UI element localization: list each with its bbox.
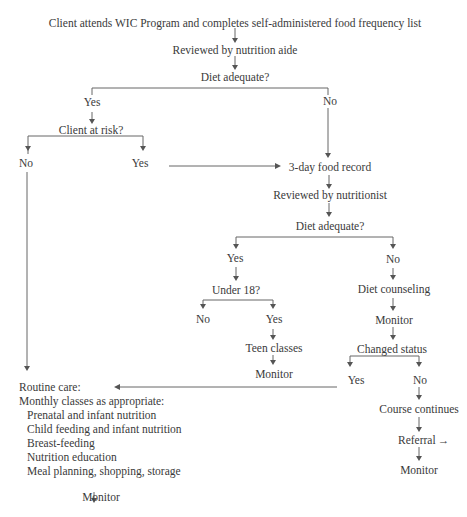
class-item: Child feeding and infant nutrition [27, 423, 182, 436]
arrow-right-icon: → [438, 434, 450, 446]
food-record-node: 3-day food record [289, 161, 371, 174]
teen-classes-node: Teen classes [246, 342, 303, 355]
yes-label-2: Yes [227, 252, 244, 265]
diet-adequate-decision-2: Diet adequate? [296, 220, 365, 233]
referral-node: Referral→ [398, 434, 449, 447]
class-item: Nutrition education [27, 451, 117, 464]
monitor-teen-node: Monitor [255, 368, 293, 381]
monitor-routine-node: Monitor [82, 491, 120, 504]
monitor-counseling-node: Monitor [375, 314, 413, 327]
class-item: Prenatal and infant nutrition [27, 409, 156, 422]
review-nutritionist-node: Reviewed by nutritionist [273, 189, 387, 202]
risk-no-label: No [19, 157, 33, 170]
class-item: Breast-feeding [27, 437, 95, 450]
review-aide-node: Reviewed by nutrition aide [173, 44, 298, 57]
routine-care-heading: Routine care: [19, 381, 81, 394]
changed-status-decision: Changed status [357, 343, 427, 356]
client-at-risk-decision: Client at risk? [59, 124, 124, 137]
diet-adequate-decision-1: Diet adequate? [201, 71, 270, 84]
monthly-classes-heading: Monthly classes as appropriate: [19, 395, 164, 408]
changed-status-yes-label: Yes [348, 374, 365, 387]
under-18-decision: Under 18? [212, 284, 260, 297]
monitor-referral-node: Monitor [400, 464, 438, 477]
no-label-2: No [386, 253, 400, 266]
course-continues-node: Course continues [379, 403, 459, 416]
risk-yes-label: Yes [132, 157, 149, 170]
changed-status-no-label: No [413, 374, 427, 387]
start-node: Client attends WIC Program and completes… [49, 17, 421, 30]
yes-label-1: Yes [84, 96, 101, 109]
referral-label: Referral [398, 434, 436, 446]
under-18-yes-label: Yes [266, 313, 283, 326]
flowchart-canvas: Client attends WIC Program and completes… [0, 0, 467, 517]
no-label-1: No [323, 95, 337, 108]
under-18-no-label: No [196, 313, 210, 326]
class-item: Meal planning, shopping, storage [27, 465, 181, 478]
diet-counseling-node: Diet counseling [358, 283, 431, 296]
